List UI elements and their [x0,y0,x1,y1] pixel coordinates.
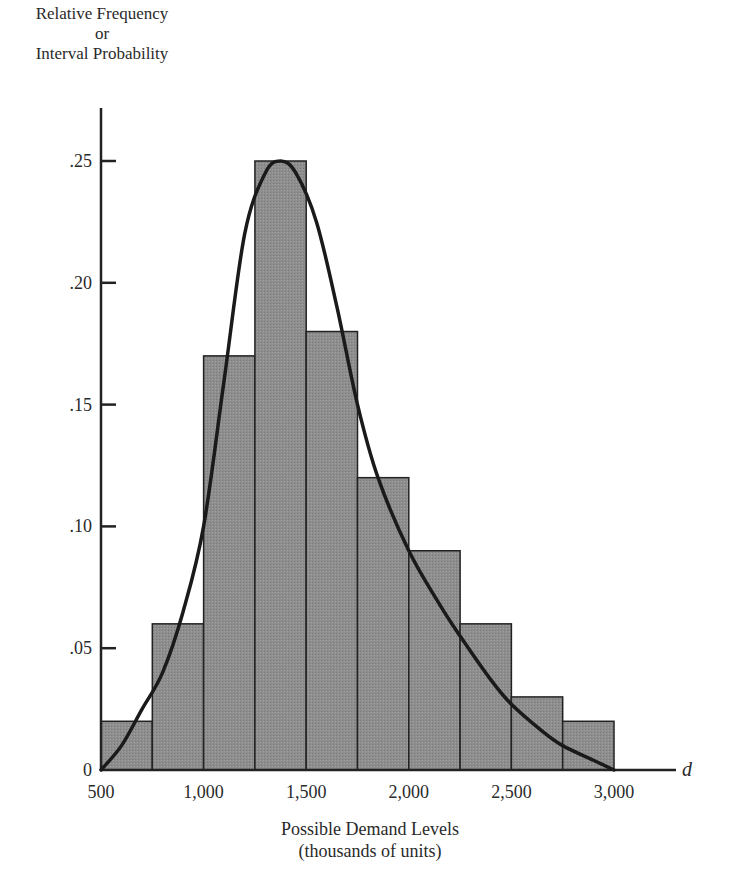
histogram-bar [255,161,306,770]
x-tick-label: 2,000 [389,782,430,802]
x-tick-label: 2,500 [491,782,532,802]
x-axis-title: Possible Demand Levels (thousands of uni… [240,818,500,862]
x-tick-label: 1,000 [183,782,224,802]
y-tick-label: .15 [70,395,93,415]
y-tick-label: 0 [83,760,92,780]
histogram-bars [101,161,614,770]
y-tick-label: .10 [70,516,93,536]
histogram-bar [204,356,255,770]
histogram-bar [511,697,562,770]
y-tick-label: .25 [70,151,93,171]
x-tick-label: 500 [88,782,115,802]
histogram-bar [563,721,614,770]
x-axis-symbol-d: d [682,758,693,780]
y-tick-label: .05 [70,638,93,658]
x-tick-label: 1,500 [286,782,327,802]
x-tick-label: 3,000 [594,782,635,802]
histogram-bar [306,332,357,770]
x-axis-title-line1: Possible Demand Levels [240,818,500,840]
histogram-bar [152,624,203,770]
histogram-bar [409,551,460,770]
histogram-chart: 0.05.10.15.20.255001,0001,5002,0002,5003… [0,0,730,890]
histogram-bar [358,478,409,770]
y-tick-label: .20 [70,273,93,293]
x-axis-title-line2: (thousands of units) [240,840,500,862]
